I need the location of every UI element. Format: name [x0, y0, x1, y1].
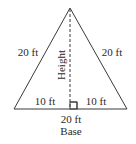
left-side-label: 20 ft: [18, 46, 38, 58]
base-label: Base: [60, 125, 82, 137]
right-angle-box: [70, 102, 77, 109]
base-length-label: 20 ft: [61, 113, 81, 125]
triangle-outline: [14, 8, 127, 109]
triangle-diagram: 20 ft 20 ft Height 10 ft 10 ft 20 ft Bas…: [0, 0, 136, 144]
right-half-base-label: 10 ft: [86, 95, 106, 107]
right-side-label: 20 ft: [102, 46, 122, 58]
right-angle-marker: [70, 102, 77, 109]
height-label: Height: [55, 50, 67, 80]
left-half-base-label: 10 ft: [35, 95, 55, 107]
